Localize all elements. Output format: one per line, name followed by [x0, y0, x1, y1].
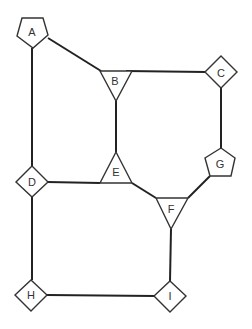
edge-a-b: [48, 38, 101, 71]
edge-f-g: [188, 176, 210, 198]
node-e: E: [100, 152, 132, 183]
node-label-g: G: [216, 158, 225, 170]
edge-b-c: [126, 71, 206, 72]
node-b: B: [100, 71, 132, 101]
node-g: G: [205, 148, 235, 176]
node-c: C: [205, 56, 237, 88]
node-label-f: F: [168, 203, 175, 215]
node-label-a: A: [28, 26, 36, 38]
node-label-b: B: [111, 75, 118, 87]
node-a: A: [17, 18, 48, 48]
edge-e-f: [132, 183, 156, 198]
edge-f-i: [170, 229, 171, 281]
node-label-e: E: [112, 166, 119, 178]
node-label-c: C: [217, 67, 225, 79]
node-d: D: [16, 166, 48, 197]
node-i: I: [154, 281, 186, 312]
node-label-h: H: [27, 289, 35, 301]
node-label-d: D: [28, 176, 36, 188]
edge-h-i: [47, 295, 155, 296]
graph-diagram: A B C D E F G H I: [0, 0, 252, 329]
node-label-i: I: [168, 290, 171, 302]
edge-d-e: [47, 182, 100, 183]
node-h: H: [15, 280, 47, 311]
node-f: F: [156, 198, 188, 229]
